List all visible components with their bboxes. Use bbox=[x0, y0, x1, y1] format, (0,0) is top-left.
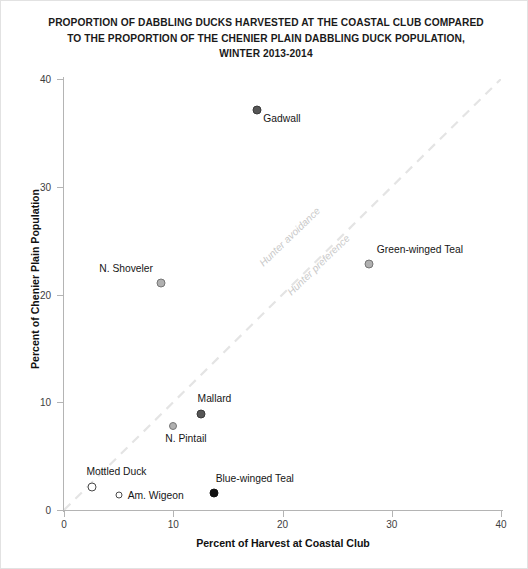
y-tick-mark bbox=[57, 295, 63, 296]
x-tick-mark bbox=[392, 511, 393, 517]
y-tick-mark bbox=[57, 510, 63, 511]
data-point bbox=[169, 422, 177, 430]
x-tick-mark bbox=[173, 511, 174, 517]
data-point-label: Blue-winged Teal bbox=[216, 473, 294, 484]
data-point bbox=[364, 260, 373, 269]
x-tick-mark bbox=[64, 511, 65, 517]
chart-figure: PROPORTION OF DABBLING DUCKS HARVESTED A… bbox=[0, 0, 528, 569]
x-tick-label: 30 bbox=[372, 519, 412, 530]
chart-annotation: Hunter preference bbox=[285, 233, 352, 298]
data-point bbox=[253, 106, 262, 115]
y-axis-label: Percent of Chenier Plain Population bbox=[29, 149, 41, 409]
data-point-label: Gadwall bbox=[263, 113, 300, 124]
data-point bbox=[157, 278, 166, 287]
x-tick-mark bbox=[283, 511, 284, 517]
x-tick-label: 40 bbox=[481, 519, 521, 530]
chart-title-line-1: PROPORTION OF DABBLING DUCKS HARVESTED A… bbox=[35, 15, 497, 31]
data-point-label: Am. Wigeon bbox=[128, 490, 184, 501]
chart-annotation: Hunter avoidance bbox=[257, 205, 322, 268]
data-point bbox=[209, 488, 218, 497]
plot-area: GadwallGreen-winged TealN. ShovelerMalla… bbox=[64, 79, 501, 510]
data-point-label: N. Shoveler bbox=[99, 263, 153, 274]
y-tick-label: 0 bbox=[17, 505, 51, 516]
x-axis-label: Percent of Harvest at Coastal Club bbox=[63, 537, 503, 549]
x-tick-mark bbox=[501, 511, 502, 517]
reference-line-1to1 bbox=[64, 79, 501, 510]
data-point bbox=[115, 491, 122, 498]
data-point-label: N. Pintail bbox=[165, 433, 206, 444]
chart-title-line-3: WINTER 2013-2014 bbox=[35, 46, 497, 62]
data-point bbox=[88, 483, 97, 492]
y-tick-mark bbox=[57, 79, 63, 80]
chart-title: PROPORTION OF DABBLING DUCKS HARVESTED A… bbox=[35, 15, 497, 62]
data-point bbox=[196, 410, 205, 419]
y-tick-mark bbox=[57, 402, 63, 403]
x-tick-label: 20 bbox=[263, 519, 303, 530]
chart-title-line-2: TO THE PROPORTION OF THE CHENIER PLAIN D… bbox=[35, 31, 497, 47]
x-tick-label: 0 bbox=[44, 519, 84, 530]
data-point-label: Mallard bbox=[198, 393, 232, 404]
data-point-label: Green-winged Teal bbox=[377, 244, 463, 255]
y-tick-mark bbox=[57, 187, 63, 188]
y-tick-label: 40 bbox=[17, 74, 51, 85]
data-point-label: Mottled Duck bbox=[86, 466, 146, 477]
x-tick-label: 10 bbox=[153, 519, 193, 530]
